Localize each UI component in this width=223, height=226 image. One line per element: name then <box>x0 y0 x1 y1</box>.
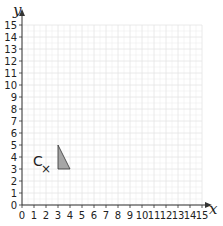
y-axis-label: y <box>12 1 22 19</box>
x-tick-label: 4 <box>67 210 73 221</box>
x-tick-label: 8 <box>115 210 121 221</box>
y-tick-label: 0 <box>11 200 17 211</box>
x-tick-label: 12 <box>160 210 173 221</box>
coordinate-grid-diagram: 0123456789101112131415012345678910111213… <box>0 0 223 226</box>
x-tick-label: 14 <box>184 210 197 221</box>
x-axis-label: x <box>209 200 218 218</box>
axes <box>19 9 212 208</box>
point-marker: × <box>41 162 51 176</box>
x-tick-label: 7 <box>103 210 109 221</box>
x-tick-label: 0 <box>19 210 25 221</box>
x-tick-label: 15 <box>196 210 209 221</box>
x-tick-label: 13 <box>172 210 185 221</box>
y-tick-label: 7 <box>11 116 17 127</box>
y-tick-label: 1 <box>11 188 17 199</box>
y-tick-label: 10 <box>4 80 17 91</box>
y-tick-label: 12 <box>4 56 17 67</box>
x-tick-label: 5 <box>79 210 85 221</box>
y-tick-label: 3 <box>11 164 17 175</box>
x-tick-label: 2 <box>43 210 49 221</box>
y-tick-label: 11 <box>4 68 17 79</box>
x-tick-label: 1 <box>31 210 37 221</box>
y-tick-label: 5 <box>11 140 17 151</box>
y-tick-label: 14 <box>4 32 17 43</box>
y-tick-label: 13 <box>4 44 17 55</box>
x-tick-label: 6 <box>91 210 97 221</box>
y-tick-label: 6 <box>11 128 17 139</box>
y-tick-label: 4 <box>11 152 17 163</box>
x-tick-label: 9 <box>127 210 133 221</box>
y-tick-label: 9 <box>11 92 17 103</box>
x-tick-label: 3 <box>55 210 61 221</box>
grid-lines <box>22 25 202 205</box>
x-tick-label: 11 <box>148 210 161 221</box>
x-tick-label: 10 <box>136 210 149 221</box>
y-tick-label: 8 <box>11 104 17 115</box>
y-tick-label: 15 <box>4 20 17 31</box>
points: C× <box>33 153 51 176</box>
y-tick-label: 2 <box>11 176 17 187</box>
